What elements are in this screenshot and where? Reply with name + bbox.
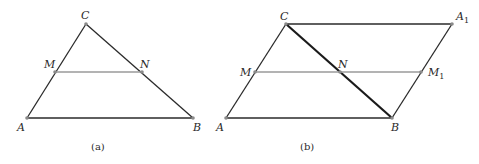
figure-a: C M N A B (a) xyxy=(16,9,201,152)
label-A1: A1 xyxy=(455,10,469,25)
label-M: M xyxy=(43,58,56,71)
label-M1: M1 xyxy=(427,66,444,81)
geometry-diagram: C M N A B (a) C A1 M N M1 A B (b) xyxy=(0,0,479,164)
label-N: N xyxy=(337,58,348,71)
label-C: C xyxy=(280,10,289,23)
label-C: C xyxy=(81,9,90,22)
label-B: B xyxy=(192,121,201,134)
label-N: N xyxy=(139,58,150,71)
segment-AC xyxy=(27,24,86,118)
caption-b: (b) xyxy=(300,141,314,152)
points xyxy=(224,22,454,120)
points xyxy=(25,22,195,120)
label-A: A xyxy=(215,121,224,134)
label-B: B xyxy=(390,121,399,134)
segment-CB xyxy=(86,24,193,118)
caption-a: (a) xyxy=(91,141,105,152)
figure-b: C A1 M N M1 A B (b) xyxy=(215,10,469,152)
label-A: A xyxy=(16,121,25,134)
label-M: M xyxy=(239,66,252,79)
